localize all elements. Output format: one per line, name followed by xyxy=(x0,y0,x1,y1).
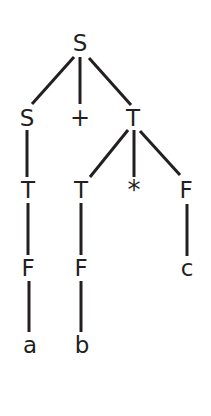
tree-node-s-left: S xyxy=(20,107,35,130)
parse-tree-figure: SS+TTT*FFFcab xyxy=(0,0,211,416)
tree-edge xyxy=(89,58,131,105)
tree-node-t-a: T xyxy=(21,179,35,202)
tree-node-f-c: F xyxy=(179,179,192,202)
edge-group xyxy=(27,57,187,332)
tree-node-t-right: T xyxy=(126,107,140,130)
tree-edge xyxy=(140,131,180,175)
tree-node-plus: + xyxy=(70,106,90,130)
tree-node-b: b xyxy=(75,334,90,357)
tree-node-f-b: F xyxy=(74,257,87,280)
tree-node-star: * xyxy=(128,177,141,203)
tree-edge xyxy=(90,130,128,177)
tree-node-c: c xyxy=(181,257,194,280)
tree-node-f-a: F xyxy=(21,257,34,280)
tree-node-a: a xyxy=(23,334,37,357)
tree-node-s-root: S xyxy=(73,32,88,55)
tree-node-t-b: T xyxy=(74,179,88,202)
tree-edge xyxy=(32,57,74,104)
